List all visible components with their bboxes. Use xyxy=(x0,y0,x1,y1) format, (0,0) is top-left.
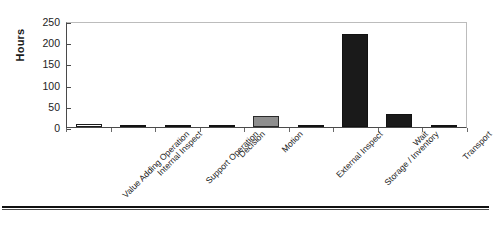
page-divider-rule xyxy=(2,206,489,208)
bar-slot xyxy=(289,23,333,127)
bar xyxy=(342,34,368,127)
x-axis-label: External Inspect xyxy=(334,129,385,180)
bar-slot xyxy=(377,23,421,127)
x-tick-mark xyxy=(467,128,468,132)
bar xyxy=(209,125,235,127)
x-axis-label: Motion xyxy=(280,129,305,154)
y-tick-mark xyxy=(67,44,71,45)
x-axis-labels: Value Adding OperationInternal InspectSu… xyxy=(66,129,467,199)
bar xyxy=(165,125,191,127)
bar-slot xyxy=(200,23,244,127)
bar-slot xyxy=(422,23,466,127)
x-axis-label: Value Adding Operation xyxy=(120,129,191,200)
x-axis-label: Transport xyxy=(461,129,494,162)
y-tick-mark xyxy=(67,108,71,109)
bar-slot xyxy=(156,23,200,127)
y-tick-label: 150 xyxy=(42,58,60,70)
bar xyxy=(386,114,412,127)
bar xyxy=(253,116,279,127)
bar-series xyxy=(67,23,466,127)
bar xyxy=(298,125,324,127)
y-tick-label: 250 xyxy=(42,16,60,28)
bar-slot xyxy=(111,23,155,127)
plot-area: 250200150100500 xyxy=(66,22,467,128)
y-tick-label: 200 xyxy=(42,37,60,49)
y-tick-mark xyxy=(67,23,71,24)
bar-slot xyxy=(67,23,111,127)
bar xyxy=(120,125,146,127)
bar xyxy=(431,125,457,127)
y-tick-label: 100 xyxy=(42,80,60,92)
bar-slot xyxy=(333,23,377,127)
page-divider-rule-secondary xyxy=(2,209,489,210)
y-tick-label: 50 xyxy=(48,101,60,113)
bar-slot xyxy=(244,23,288,127)
y-tick-label: 0 xyxy=(54,122,60,134)
y-tick-mark xyxy=(67,65,71,66)
bar xyxy=(76,124,102,127)
x-axis-label: Storage / Inventory xyxy=(382,129,440,187)
y-axis-title: Hours xyxy=(9,12,31,78)
y-tick-mark xyxy=(67,87,71,88)
